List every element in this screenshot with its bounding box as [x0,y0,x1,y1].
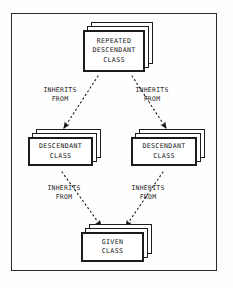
node-repeated-descendant-class-label: REPEATED DESCENDANT CLASS [83,30,145,72]
edge-label-top-right: INHERITS FROM [124,86,180,104]
node-descendant-class-left[interactable]: DESCENDANT CLASS [28,137,93,166]
node-given-class[interactable]: GIVEN CLASS [81,232,144,262]
node-given-class-label: GIVEN CLASS [81,232,144,262]
edge-label-bottom-left: INHERITS FROM [36,184,92,202]
node-descendant-class-right[interactable]: DESCENDANT CLASS [131,137,197,166]
edge-label-top-left: INHERITS FROM [32,86,88,104]
inheritance-diagram: REPEATED DESCENDANT CLASS DESCENDANT CLA… [0,0,233,288]
node-descendant-class-right-label: DESCENDANT CLASS [131,137,197,166]
edge-label-bottom-right: INHERITS FROM [120,184,176,202]
node-repeated-descendant-class[interactable]: REPEATED DESCENDANT CLASS [83,30,145,72]
node-descendant-class-left-label: DESCENDANT CLASS [28,137,93,166]
